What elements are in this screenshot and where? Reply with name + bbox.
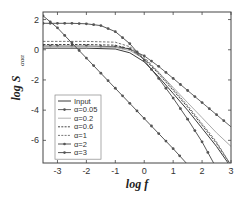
series-marker-5	[128, 42, 131, 45]
series-marker-1	[172, 77, 175, 80]
series-marker-1	[157, 65, 160, 68]
y-axis-title: log S	[9, 75, 23, 100]
series-marker-5	[85, 22, 88, 25]
series-marker-6	[178, 154, 181, 157]
series-marker-5	[99, 24, 102, 27]
series-marker-6	[114, 87, 117, 90]
y-tick-label: 0	[34, 45, 39, 55]
series-marker-6	[143, 117, 146, 120]
series-marker-5	[114, 30, 117, 33]
series-marker-6	[136, 110, 139, 113]
series-marker-5	[63, 22, 66, 25]
series-marker-1	[201, 101, 204, 104]
series-marker-5	[150, 68, 153, 71]
series-marker-6	[107, 79, 110, 82]
series-marker-6	[150, 125, 153, 128]
y-tick-label: -6	[31, 135, 39, 145]
series-marker-1	[150, 60, 153, 63]
series-marker-5	[143, 59, 146, 62]
series-marker-1	[222, 119, 225, 122]
legend-marker	[63, 151, 66, 154]
series-marker-6	[99, 72, 102, 75]
y-tick-label: -2	[31, 75, 39, 85]
series-marker-5	[186, 118, 189, 121]
legend: Inputα=0.05α=0.2α=0.6α=1α=2α=3	[55, 95, 101, 159]
x-tick-label: 2	[200, 166, 205, 176]
series-marker-5	[157, 77, 160, 80]
series-marker-5	[78, 22, 81, 25]
x-tick-label: 3	[228, 166, 233, 176]
legend-marker	[63, 143, 66, 146]
series-marker-5	[71, 22, 74, 25]
series-marker-6	[92, 64, 95, 67]
legend-label: α=3	[74, 148, 87, 157]
y-tick-label: 2	[34, 15, 39, 25]
series-marker-6	[56, 26, 59, 29]
series-marker-6	[157, 132, 160, 135]
series-marker-5	[165, 87, 168, 90]
series-marker-1	[186, 89, 189, 92]
series-marker-6	[78, 49, 81, 52]
series-marker-6	[71, 42, 74, 45]
series-marker-5	[56, 22, 59, 25]
series-marker-5	[92, 23, 95, 26]
x-tick-label: 0	[142, 166, 147, 176]
series-marker-6	[128, 102, 131, 105]
series-marker-5	[179, 107, 182, 110]
series-marker-6	[165, 140, 168, 143]
series-marker-5	[201, 140, 204, 143]
series-marker-6	[172, 147, 175, 150]
x-tick-label: -2	[82, 166, 90, 176]
x-axis-title: log f	[126, 177, 149, 191]
series-marker-1	[215, 113, 218, 116]
x-tick-label: -3	[53, 166, 61, 176]
series-marker-1	[165, 71, 168, 74]
series-marker-1	[179, 83, 182, 86]
y-tick-label: -4	[31, 105, 39, 115]
series-marker-1	[193, 95, 196, 98]
x-tick-label: -1	[111, 166, 119, 176]
spectrum-chart: -3-2-10123 20-2-4-6 log f log S ααα Inpu…	[0, 0, 246, 199]
series-marker-6	[85, 57, 88, 60]
legend-marker	[63, 108, 66, 111]
series-marker-6	[121, 94, 124, 97]
series-marker-5	[107, 27, 110, 30]
series-marker-1	[208, 107, 211, 110]
y-axis-title-subscript: ααα	[18, 55, 26, 66]
x-tick-label: 1	[171, 166, 176, 176]
series-marker-6	[63, 34, 66, 37]
series-marker-5	[136, 51, 139, 54]
series-marker-5	[193, 129, 196, 132]
series-marker-5	[172, 97, 175, 100]
series-marker-5	[121, 36, 124, 39]
series-marker-5	[206, 151, 209, 154]
series-marker-6	[49, 20, 52, 23]
